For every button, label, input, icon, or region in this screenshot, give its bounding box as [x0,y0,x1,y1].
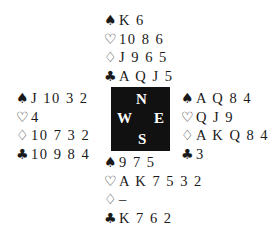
east-diamonds-row: ♢ A K Q 8 4 [181,126,269,145]
diamond-icon: ♢ [104,48,119,67]
compass-south: S [138,132,146,147]
east-diamonds-cards: A K Q 8 4 [196,126,269,145]
north-hearts-cards: 10 8 6 [119,30,164,49]
west-spades-row: ♠ J 10 3 2 [16,89,90,108]
club-icon: ♣ [104,67,119,86]
heart-icon: ♡ [181,108,196,127]
north-clubs-cards: A Q J 5 [119,67,173,86]
south-diamonds-row: ♢ – [104,190,203,209]
west-diamonds-cards: 10 7 3 2 [31,126,90,145]
south-clubs-row: ♣ K 7 6 2 [104,209,203,228]
spade-icon: ♠ [181,89,196,108]
east-spades-row: ♠ A Q 8 4 [181,89,269,108]
north-hand: ♠ K 6 ♡ 10 8 6 ♢ J 9 6 5 ♣ A Q J 5 [104,11,173,85]
north-hearts-row: ♡ 10 8 6 [104,30,173,49]
east-hearts-cards: Q J 9 [196,108,234,127]
club-icon: ♣ [16,145,31,164]
south-clubs-cards: K 7 6 2 [119,209,173,228]
west-hearts-row: ♡ 4 [16,108,90,127]
east-hand: ♠ A Q 8 4 ♡ Q J 9 ♢ A K Q 8 4 ♣ 3 [181,89,269,163]
west-hand: ♠ J 10 3 2 ♡ 4 ♢ 10 7 3 2 ♣ 10 9 8 4 [16,89,90,163]
spade-icon: ♠ [16,89,31,108]
spade-icon: ♠ [104,153,119,172]
east-spades-cards: A Q 8 4 [196,89,252,108]
heart-icon: ♡ [104,172,119,191]
spade-icon: ♠ [104,11,119,30]
west-clubs-cards: 10 9 8 4 [31,145,90,164]
diamond-icon: ♢ [16,126,31,145]
south-hearts-row: ♡ A K 7 5 3 2 [104,172,203,191]
diamond-icon: ♢ [181,126,196,145]
west-diamonds-row: ♢ 10 7 3 2 [16,126,90,145]
east-hearts-row: ♡ Q J 9 [181,108,269,127]
north-spades-cards: K 6 [119,11,145,30]
south-spades-row: ♠ 9 7 5 [104,153,203,172]
west-spades-cards: J 10 3 2 [31,89,89,108]
diamond-icon: ♢ [104,190,119,209]
south-hearts-cards: A K 7 5 3 2 [119,172,203,191]
north-diamonds-row: ♢ J 9 6 5 [104,48,173,67]
heart-icon: ♡ [16,108,31,127]
west-clubs-row: ♣ 10 9 8 4 [16,145,90,164]
compass-west: W [117,111,132,126]
south-diamonds-cards: – [119,190,128,209]
club-icon: ♣ [104,209,119,228]
north-spades-row: ♠ K 6 [104,11,173,30]
west-hearts-cards: 4 [31,108,40,127]
compass-east: E [154,111,164,126]
north-clubs-row: ♣ A Q J 5 [104,67,173,86]
compass-table: N W E S [111,87,170,151]
south-spades-cards: 9 7 5 [119,153,156,172]
heart-icon: ♡ [104,30,119,49]
south-hand: ♠ 9 7 5 ♡ A K 7 5 3 2 ♢ – ♣ K 7 6 2 [104,153,203,227]
compass-north: N [136,92,147,107]
north-diamonds-cards: J 9 6 5 [119,48,168,67]
